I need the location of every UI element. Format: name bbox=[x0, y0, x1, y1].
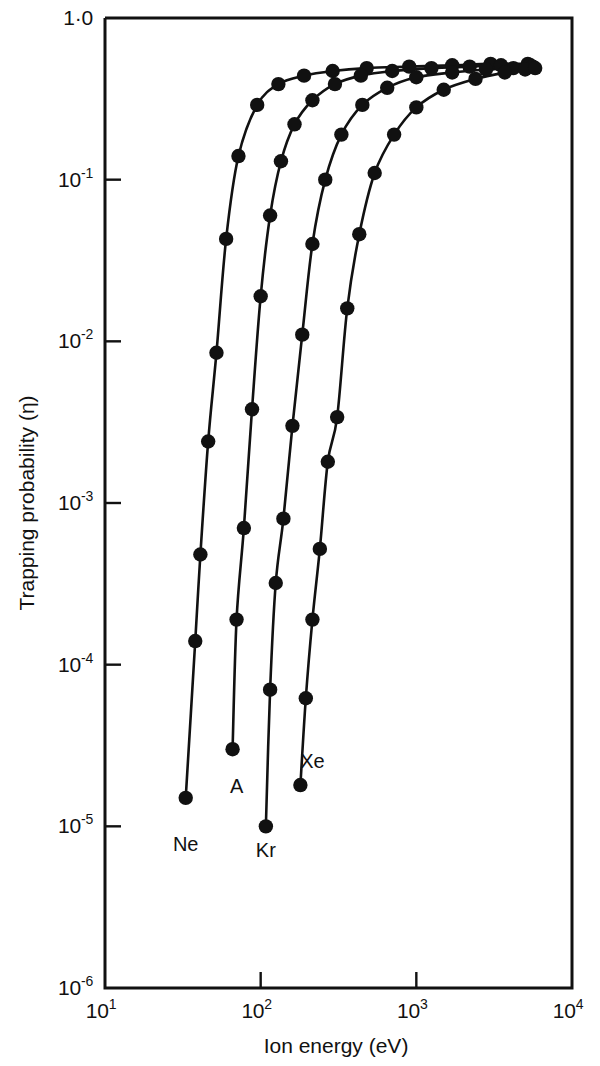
data-point-xe bbox=[330, 410, 344, 424]
data-point-ne bbox=[193, 547, 207, 561]
data-point-a bbox=[263, 208, 277, 222]
data-point-a bbox=[237, 521, 251, 535]
y-tick-label: 10-4 bbox=[58, 650, 93, 676]
x-tick-label: 101 bbox=[86, 996, 117, 1022]
series-label-ne: Ne bbox=[173, 833, 199, 855]
data-point-xe bbox=[321, 455, 335, 469]
data-point-a bbox=[245, 402, 259, 416]
series-labels: NeAKrXe bbox=[173, 750, 325, 861]
data-point-ne bbox=[271, 77, 285, 91]
data-point-xe bbox=[387, 127, 401, 141]
data-point-a bbox=[385, 64, 399, 78]
x-tick-label: 103 bbox=[397, 996, 428, 1022]
data-point-kr bbox=[276, 511, 290, 525]
data-point-kr bbox=[445, 65, 459, 79]
data-point-ne bbox=[231, 149, 245, 163]
y-tick-label: 10-6 bbox=[58, 973, 93, 999]
data-point-ne bbox=[325, 64, 339, 78]
data-point-xe bbox=[498, 65, 512, 79]
x-axis-title: Ion energy (eV) bbox=[264, 1034, 409, 1057]
data-point-xe bbox=[528, 61, 542, 75]
data-point-kr bbox=[285, 419, 299, 433]
x-tick-labels: 101102103104 bbox=[86, 996, 584, 1022]
curve-a bbox=[233, 65, 531, 749]
data-point-a bbox=[253, 289, 267, 303]
series-label-xe: Xe bbox=[300, 750, 324, 772]
data-point-xe bbox=[299, 691, 313, 705]
x-tick-label: 102 bbox=[241, 996, 272, 1022]
data-point-xe bbox=[437, 83, 451, 97]
data-point-kr bbox=[259, 819, 273, 833]
data-point-kr bbox=[355, 98, 369, 112]
series-label-a: A bbox=[230, 775, 244, 797]
data-curves bbox=[186, 64, 535, 827]
data-point-ne bbox=[188, 634, 202, 648]
trapping-probability-chart: 101102103104 1·010-110-210-310-410-510-6… bbox=[0, 0, 600, 1066]
data-point-a bbox=[328, 77, 342, 91]
curve-ne bbox=[186, 64, 528, 798]
chart-svg: 101102103104 1·010-110-210-310-410-510-6… bbox=[0, 0, 600, 1066]
y-tick-labels: 1·010-110-210-310-410-510-6 bbox=[58, 6, 93, 999]
data-point-a bbox=[305, 93, 319, 107]
y-tick-label: 10-3 bbox=[58, 488, 93, 514]
data-point-kr bbox=[409, 70, 423, 84]
y-axis-title: Trapping probability (η) bbox=[15, 395, 38, 610]
data-point-ne bbox=[201, 434, 215, 448]
data-point-xe bbox=[367, 166, 381, 180]
data-point-xe bbox=[352, 227, 366, 241]
data-point-kr bbox=[318, 172, 332, 186]
data-point-kr bbox=[269, 576, 283, 590]
y-tick-label: 1·0 bbox=[63, 6, 93, 29]
data-point-a bbox=[274, 154, 288, 168]
data-point-a bbox=[287, 117, 301, 131]
curve-xe bbox=[300, 68, 535, 785]
data-point-kr bbox=[263, 683, 277, 697]
data-point-ne bbox=[219, 232, 233, 246]
data-point-ne bbox=[209, 346, 223, 360]
data-point-xe bbox=[409, 100, 423, 114]
data-point-ne bbox=[250, 98, 264, 112]
series-label-kr: Kr bbox=[256, 839, 276, 861]
y-tick-label: 10-5 bbox=[58, 811, 93, 837]
data-point-a bbox=[225, 742, 239, 756]
data-point-kr bbox=[295, 327, 309, 341]
data-point-a bbox=[462, 59, 476, 73]
data-point-xe bbox=[340, 301, 354, 315]
data-point-xe bbox=[293, 778, 307, 792]
data-point-ne bbox=[297, 68, 311, 82]
x-tick-label: 104 bbox=[553, 996, 584, 1022]
data-point-xe bbox=[305, 612, 319, 626]
y-tick-label: 10-2 bbox=[58, 326, 93, 352]
data-point-kr bbox=[305, 237, 319, 251]
data-point-a bbox=[424, 61, 438, 75]
data-point-a bbox=[229, 612, 243, 626]
data-point-a bbox=[354, 68, 368, 82]
data-point-xe bbox=[313, 542, 327, 556]
data-point-ne bbox=[179, 791, 193, 805]
data-point-xe bbox=[468, 72, 482, 86]
data-point-kr bbox=[334, 127, 348, 141]
data-point-kr bbox=[380, 81, 394, 95]
y-tick-label: 10-1 bbox=[58, 165, 93, 191]
